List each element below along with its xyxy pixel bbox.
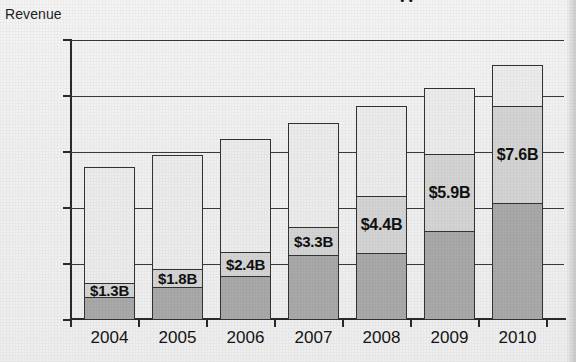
bar-value-label-2010: $7.6B [497,146,539,164]
x-tick-mark-2004 [70,319,72,327]
bar-2008: $4.4B [356,106,407,320]
bar-value-label-2006: $2.4B [226,256,265,273]
bar-2005: $1.8B [152,155,203,320]
y-axis-title: Revenue [5,6,62,22]
bar-value-callout-2007: $3.3B [289,227,338,255]
gridline-10 [70,40,564,41]
bar-lower-segment-2006 [221,276,270,319]
bar-lower-segment-2004 [85,297,134,319]
cut-off-title-fragment: yy [398,0,415,2]
bar-lower-segment-2005 [153,287,202,319]
y-tick-mark-6 [63,151,71,153]
bar-lower-segment-2007 [289,255,338,319]
x-axis-label-2010: 2010 [484,328,551,348]
y-tick-mark-2 [63,263,71,265]
x-tick-mark-2006 [206,319,208,327]
x-axis-label-2004: 2004 [76,328,143,348]
x-axis-label-2007: 2007 [280,328,347,348]
bar-2009: $5.9B [424,88,475,320]
x-axis-label-2008: 2008 [348,328,415,348]
bar-value-label-2009: $5.9B [429,184,471,202]
y-axis-line [70,39,72,321]
plot-area: $10B86420 $1.3B$1.8B$2.4B$3.3B$4.4B$5.9B… [70,40,564,320]
bar-value-label-2008: $4.4B [361,216,403,234]
bar-2010: $7.6B [492,65,543,320]
bar-value-label-2004: $1.3B [90,282,129,299]
y-tick-mark-10 [63,39,71,41]
x-tick-mark-end [546,319,548,327]
bar-2006: $2.4B [220,139,271,320]
x-tick-mark-2010 [478,319,480,327]
bar-value-label-2007: $3.3B [294,233,333,250]
x-tick-mark-2007 [274,319,276,327]
x-axis-label-2006: 2006 [212,328,279,348]
gridline-8 [70,96,564,97]
bar-value-callout-2008: $4.4B [357,196,406,253]
bar-2004: $1.3B [84,167,135,320]
bar-value-callout-2004: $1.3B [85,283,134,297]
bar-value-label-2005: $1.8B [158,270,197,287]
x-axis-label-2005: 2005 [144,328,211,348]
x-axis-label-2009: 2009 [416,328,483,348]
bar-2007: $3.3B [288,123,339,320]
chart-page: yy Revenue $10B86420 $1.3B$1.8B$2.4B$3.3… [0,0,576,362]
x-tick-mark-2005 [138,319,140,327]
bar-lower-segment-2008 [357,253,406,319]
bar-value-callout-2009: $5.9B [425,154,474,231]
y-tick-mark-8 [63,95,71,97]
y-tick-mark-4 [63,207,71,209]
bar-value-callout-2006: $2.4B [221,252,270,276]
bar-lower-segment-2009 [425,231,474,319]
bar-lower-segment-2010 [493,203,542,319]
x-tick-mark-2008 [342,319,344,327]
bar-value-callout-2005: $1.8B [153,269,202,287]
x-tick-mark-2009 [410,319,412,327]
page-edge-shadow [566,0,576,362]
bar-value-callout-2010: $7.6B [493,106,542,203]
